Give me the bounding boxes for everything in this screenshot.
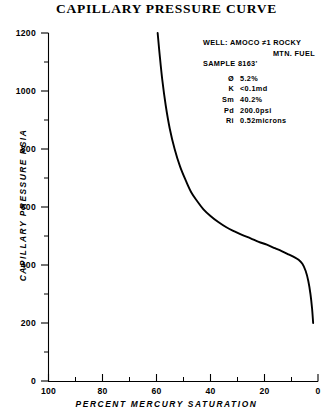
capillary-pressure-chart: CAPILLARY PRESSURE CURVE: [0, 0, 333, 418]
x-tick-label-0: 0: [301, 386, 333, 396]
param-symbol-sm: Sm: [203, 95, 240, 106]
x-axis-title: PERCENT MERCURY SATURATION: [0, 399, 333, 409]
x-tick-label-80: 80: [86, 386, 120, 396]
param-value-permeability: <0.1md: [240, 84, 267, 95]
x-tick-label-20: 20: [248, 386, 282, 396]
param-row-ri: Ri 0.52microns: [203, 116, 331, 127]
well-name-continued: MTN. FUEL: [203, 49, 331, 60]
param-row-pd: Pd 200.0psi: [203, 106, 331, 117]
param-row-porosity: Ø 5.2%: [203, 74, 331, 85]
y-axis-title: CAPILLARY PRESSURE PSIA: [18, 100, 28, 310]
x-tick-label-60: 60: [140, 386, 174, 396]
well-name: AMOCO ≠1 ROCKY: [230, 38, 301, 47]
sample-depth: SAMPLE 8163': [203, 59, 331, 70]
param-value-sm: 40.2%: [240, 95, 262, 106]
param-row-permeability: K <0.1md: [203, 84, 331, 95]
param-symbol-porosity: Ø: [203, 74, 240, 85]
y-tick-label-200: 200: [2, 318, 36, 328]
x-minor-ticks: [76, 377, 292, 382]
param-value-pd: 200.0psi: [240, 106, 272, 117]
y-major-ticks: [41, 33, 49, 381]
param-symbol-permeability: K: [203, 84, 240, 95]
param-symbol-pd: Pd: [203, 106, 240, 117]
well-label: WELL:: [203, 38, 228, 47]
y-tick-label-0: 0: [2, 376, 36, 386]
param-value-ri: 0.52microns: [240, 116, 286, 127]
y-tick-label-1000: 1000: [2, 86, 36, 96]
param-symbol-ri: Ri: [203, 116, 240, 127]
well-line: WELL: AMOCO ≠1 ROCKY: [203, 38, 331, 49]
y-tick-label-1200: 1200: [2, 28, 36, 38]
param-row-sm: Sm 40.2%: [203, 95, 331, 106]
param-value-porosity: 5.2%: [240, 74, 258, 85]
x-tick-label-100: 100: [32, 386, 66, 396]
sample-info-annotation: WELL: AMOCO ≠1 ROCKY MTN. FUEL SAMPLE 81…: [203, 38, 331, 127]
x-tick-label-40: 40: [194, 386, 228, 396]
